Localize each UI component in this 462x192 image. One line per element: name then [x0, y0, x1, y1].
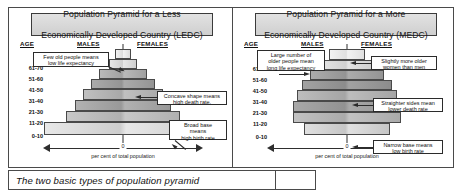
medc-age-label-0-10: 0-10 — [237, 134, 267, 140]
ledc-bar-31-40 — [83, 89, 163, 100]
ledc-scale-arrow-right — [196, 144, 203, 152]
medc-age-label-11-20: 11-20 — [237, 121, 267, 127]
ledc-scale-arrow-left — [43, 144, 50, 152]
panel-ledc: Population Pyramid for a Less Economical… — [9, 8, 232, 167]
ledc-death-rate-arrowhead — [135, 95, 141, 99]
ledc-header-age: AGE — [20, 40, 34, 47]
medc-older-women-leader — [355, 63, 371, 64]
medc-scale-zero: 0 — [344, 143, 351, 149]
medc-bar-11-20 — [293, 112, 401, 123]
medc-older-women-callout: Slightly more older women than men — [371, 56, 437, 70]
medc-title-line2: Economically Developed Country (MEDC) — [261, 30, 431, 41]
ledc-bar-11-20 — [66, 111, 180, 122]
ledc-death-rate-callout: Concave shape means high death rate. — [157, 91, 227, 105]
medc-scale-arrow-left — [267, 144, 274, 152]
medc-header-females: FEMALES — [361, 40, 392, 47]
ledc-bar-70plus — [115, 49, 131, 59]
medc-bar-61-70 — [321, 60, 373, 70]
medc-header-age: AGE — [244, 40, 258, 47]
figure-caption-text: The two basic types of population pyrami… — [9, 175, 199, 186]
medc-bar-70plus — [329, 49, 365, 60]
medc-birth-rate-leader — [357, 147, 373, 148]
ledc-age-label-51-60: 51-60 — [13, 76, 43, 82]
figure-frame: Population Pyramid for a Less Economical… — [8, 7, 454, 168]
ledc-age-label-41-50: 41-50 — [13, 87, 43, 93]
medc-age-label-51-60: 51-60 — [237, 77, 267, 83]
medc-age-label-41-50: 41-50 — [237, 88, 267, 94]
medc-older-women-arrowhead — [350, 61, 356, 65]
medc-bar-41-50 — [302, 80, 392, 90]
ledc-header-males: MALES — [77, 40, 100, 47]
medc-death-rate-callout: Straighter sides mean lower death rate — [373, 98, 443, 112]
medc-title-line1: Population Pyramid for a More — [261, 9, 431, 20]
ledc-age-label-11-20: 11-20 — [13, 120, 43, 126]
medc-age-label-21-30: 21-30 — [237, 110, 267, 116]
figure-caption-sidebox — [276, 170, 316, 190]
ledc-title-line1: Population Pyramid for a Less — [38, 9, 205, 20]
ledc-age-label-21-30: 21-30 — [13, 109, 43, 115]
panel-medc: Population Pyramid for a More Economical… — [232, 8, 456, 167]
ledc-death-rate-leader — [140, 97, 157, 98]
medc-header-males: MALES — [301, 40, 324, 47]
ledc-age-label-31-40: 31-40 — [13, 98, 43, 104]
ledc-life-expectancy-callout: Few old people means low life expectancy — [33, 52, 109, 67]
medc-life-expectancy-arrowhead — [304, 72, 310, 76]
ledc-age-label-0-10: 0-10 — [13, 133, 43, 139]
medc-bar-0-10 — [304, 123, 390, 135]
ledc-scale-zero: 0 — [120, 143, 127, 149]
ledc-scale-caption: per cent of total population — [43, 153, 203, 159]
medc-death-rate-arrowhead — [352, 103, 358, 107]
medc-death-rate-leader — [357, 105, 373, 106]
medc-bar-51-60 — [310, 70, 384, 80]
medc-age-label-31-40: 31-40 — [237, 99, 267, 105]
medc-birth-rate-arrowhead — [352, 145, 358, 149]
figure-page: Population Pyramid for a Less Economical… — [0, 0, 462, 192]
ledc-bar-41-50 — [91, 79, 155, 89]
ledc-title-box: Population Pyramid for a Less Economical… — [31, 13, 213, 36]
medc-birth-rate-callout: Narrow base means low birth rate — [373, 140, 443, 154]
medc-title-box: Population Pyramid for a More Economical… — [255, 13, 437, 36]
ledc-header-females: FEMALES — [137, 40, 168, 47]
medc-life-expectancy-leader — [279, 74, 305, 75]
ledc-birth-rate-callout: Broad base means high birth rate — [169, 120, 227, 140]
ledc-title-line2: Economically Developed Country (LEDC) — [38, 30, 205, 41]
medc-life-expectancy-callout: Large number of older people mean long l… — [257, 50, 325, 71]
figure-caption: The two basic types of population pyrami… — [8, 170, 276, 190]
ledc-scale-axis: 0 per cent of total population — [43, 144, 203, 160]
